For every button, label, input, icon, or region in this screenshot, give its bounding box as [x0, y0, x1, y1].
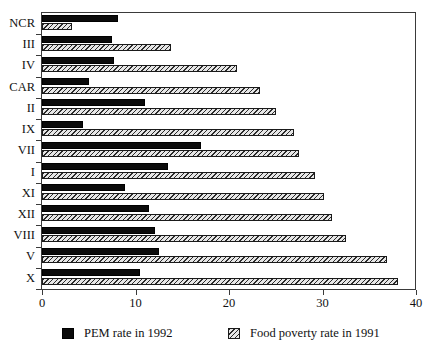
x-axis-tick-label-20: 20 [214, 296, 244, 311]
bar-row [42, 98, 416, 119]
bar-row [42, 55, 416, 76]
bar-row [42, 204, 416, 225]
bar-pem-rate [42, 57, 114, 64]
y-axis-label-ncr: NCR [0, 13, 37, 34]
legend-item-pem: PEM rate in 1992 [62, 326, 173, 341]
bar-pem-rate [42, 184, 125, 191]
y-axis-label-iii: III [0, 34, 37, 55]
y-axis-tick [36, 140, 42, 141]
bar-food-poverty-rate [42, 235, 346, 242]
x-axis-tick [323, 290, 324, 295]
bar-row [42, 13, 416, 34]
solid-black-swatch-icon [62, 328, 74, 339]
y-axis-tick [36, 98, 42, 99]
bar-pem-rate [42, 99, 145, 106]
bar-food-poverty-rate [42, 65, 237, 72]
bar-row [42, 162, 416, 183]
bar-row [42, 225, 416, 246]
bar-pem-rate [42, 78, 89, 85]
bar-row [42, 34, 416, 55]
bar-pem-rate [42, 15, 118, 22]
bar-food-poverty-rate [42, 193, 324, 200]
bar-chart: NCRIIIIVCARIIIXVIIIXIXIIVIIIVX 010203040… [0, 0, 433, 350]
bar-food-poverty-rate [42, 44, 171, 51]
bar-pem-rate [42, 36, 112, 43]
x-axis-tick-label-40: 40 [401, 296, 431, 311]
y-axis-tick [36, 55, 42, 56]
y-axis-label-iv: IV [0, 55, 37, 76]
bar-pem-rate [42, 269, 140, 276]
y-axis-label-xi: XI [0, 183, 37, 204]
bar-food-poverty-rate [42, 87, 260, 94]
bar-rows-container [42, 13, 416, 289]
x-axis-tick [42, 290, 43, 295]
y-axis-tick [36, 268, 42, 269]
y-axis-tick [36, 183, 42, 184]
bar-food-poverty-rate [42, 278, 398, 285]
chart-legend: PEM rate in 1992 Food poverty rate in 19… [0, 322, 433, 344]
bar-row [42, 268, 416, 289]
bar-pem-rate [42, 121, 83, 128]
y-axis-tick [36, 247, 42, 248]
x-axis-tick-label-0: 0 [27, 296, 57, 311]
bar-pem-rate [42, 248, 159, 255]
y-axis-label-car: CAR [0, 77, 37, 98]
y-axis-category-labels: NCRIIIIVCARIIIXVIIIXIXIIVIIIVX [0, 13, 37, 289]
bar-pem-rate [42, 205, 149, 212]
bar-row [42, 119, 416, 140]
y-axis-tick [36, 225, 42, 226]
bar-food-poverty-rate [42, 23, 72, 30]
x-axis-tick [229, 290, 230, 295]
legend-label-pem: PEM rate in 1992 [84, 326, 173, 341]
x-axis-tick [136, 290, 137, 295]
bar-pem-rate [42, 163, 168, 170]
y-axis-label-ix: IX [0, 119, 37, 140]
y-axis-label-v: V [0, 246, 37, 267]
y-axis-label-xii: XII [0, 204, 37, 225]
bar-pem-rate [42, 227, 155, 234]
bar-food-poverty-rate [42, 172, 315, 179]
bar-food-poverty-rate [42, 150, 299, 157]
bar-row [42, 77, 416, 98]
bar-food-poverty-rate [42, 108, 276, 115]
legend-label-food-poverty: Food poverty rate in 1991 [250, 326, 380, 341]
bar-row [42, 183, 416, 204]
y-axis-tick [36, 204, 42, 205]
y-axis-tick [36, 34, 42, 35]
y-axis-tick [36, 162, 42, 163]
bar-row [42, 140, 416, 161]
legend-item-food-poverty: Food poverty rate in 1991 [228, 326, 380, 341]
y-axis-label-i: I [0, 162, 37, 183]
bar-row [42, 246, 416, 267]
bar-food-poverty-rate [42, 129, 294, 136]
hatched-swatch-icon [228, 328, 240, 339]
y-axis-tick [36, 289, 42, 290]
y-axis-tick [36, 77, 42, 78]
y-axis-tick [36, 119, 42, 120]
y-axis-label-viii: VIII [0, 225, 37, 246]
bar-pem-rate [42, 142, 201, 149]
x-axis-tick [416, 290, 417, 295]
y-axis-label-x: X [0, 268, 37, 289]
y-axis-label-vii: VII [0, 140, 37, 161]
x-axis-tick-label-30: 30 [308, 296, 338, 311]
x-axis-tick-label-10: 10 [121, 296, 151, 311]
x-axis: 010203040 [0, 290, 433, 320]
bar-food-poverty-rate [42, 214, 332, 221]
y-axis-label-ii: II [0, 98, 37, 119]
bar-food-poverty-rate [42, 256, 387, 263]
